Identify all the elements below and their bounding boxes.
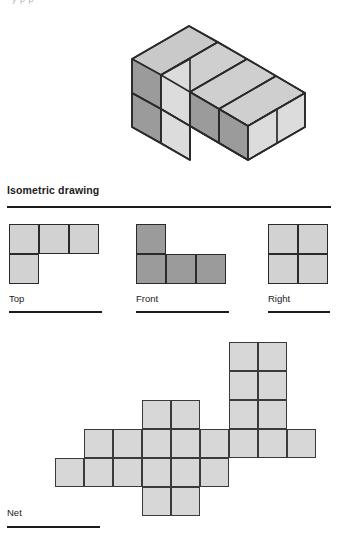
view-cell <box>166 254 196 284</box>
section-divider <box>7 206 331 208</box>
view-top-underline <box>9 311 102 313</box>
net-label: Net <box>7 507 22 518</box>
net-cell <box>229 429 258 458</box>
net-cell <box>55 458 84 487</box>
view-cell <box>39 224 69 254</box>
net-cell <box>171 429 200 458</box>
view-right: Right <box>268 224 328 284</box>
net-cell <box>258 371 287 400</box>
view-cell <box>9 224 39 254</box>
net-cell <box>171 400 200 429</box>
view-cell <box>69 224 99 254</box>
view-cell <box>196 254 226 284</box>
view-cell <box>136 224 166 254</box>
net-underline <box>7 526 100 528</box>
worksheet-page: y p p <box>0 0 338 543</box>
net-cell <box>142 400 171 429</box>
section-title: Isometric drawing <box>7 184 99 196</box>
net-cell <box>113 429 142 458</box>
view-front-label: Front <box>136 293 158 304</box>
isometric-solid-svg <box>0 6 338 184</box>
net-cell <box>258 342 287 371</box>
view-top: Top <box>9 224 99 284</box>
view-front: Front <box>136 224 226 284</box>
view-right-underline <box>268 311 330 313</box>
view-top-label: Top <box>9 293 24 304</box>
net-cell <box>258 429 287 458</box>
view-cell <box>268 224 298 254</box>
net-cell <box>84 458 113 487</box>
view-cell <box>298 224 328 254</box>
net-cell <box>142 458 171 487</box>
net-figure: Net <box>0 330 338 543</box>
net-cell <box>142 429 171 458</box>
net-cell <box>229 371 258 400</box>
net-cell <box>200 429 229 458</box>
view-cell <box>298 254 328 284</box>
view-cell <box>136 254 166 284</box>
net-cell <box>171 458 200 487</box>
net-cell <box>113 458 142 487</box>
net-cell <box>229 400 258 429</box>
net-cell <box>142 487 171 516</box>
net-cell <box>171 487 200 516</box>
view-cell <box>9 254 39 284</box>
net-cell <box>287 429 316 458</box>
net-cell <box>229 342 258 371</box>
orthographic-views: Top Front Right <box>0 224 338 324</box>
view-right-label: Right <box>268 293 290 304</box>
isometric-drawing-figure <box>0 6 338 184</box>
view-front-underline <box>136 311 229 313</box>
net-cell <box>258 400 287 429</box>
view-cell <box>268 254 298 284</box>
net-cell <box>200 458 229 487</box>
net-cell <box>84 429 113 458</box>
